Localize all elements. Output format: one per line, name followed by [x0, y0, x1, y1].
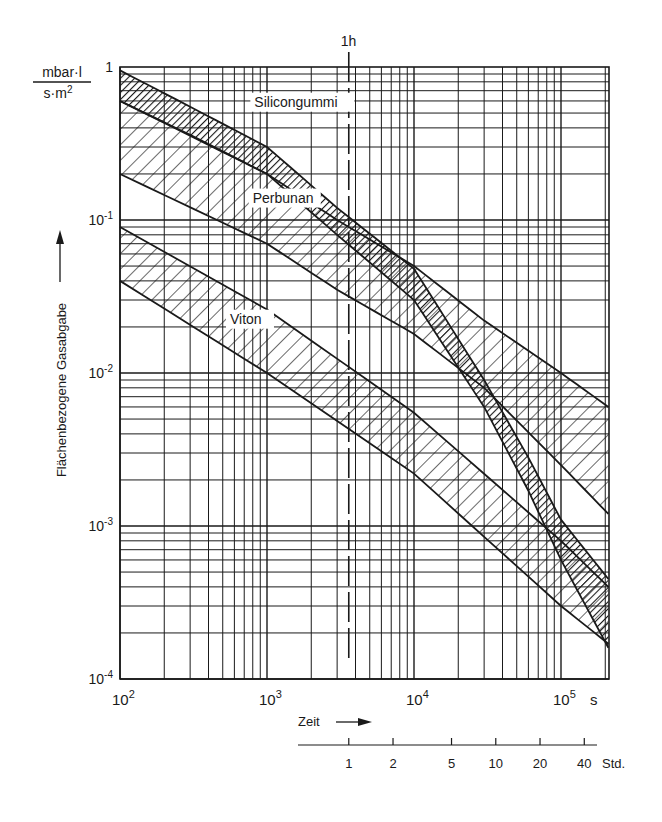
y-tick-label: 10-4 [89, 669, 114, 687]
x-tick-label: 102 [112, 688, 135, 708]
hours-tick-label: 10 [489, 756, 503, 771]
band-viton-lower-edge [120, 281, 608, 644]
x-tick-label: 103 [259, 688, 282, 708]
hours-tick-label: 5 [448, 756, 455, 771]
x-tick-labels: 102103104105 [112, 688, 576, 708]
y-axis-title: Flächenbezogene Gasabgabe [54, 303, 69, 477]
y-tick-label: 1 [105, 59, 113, 75]
hours-tick-label: 40 [577, 756, 591, 771]
y-unit-denominator: s·m2 [44, 84, 73, 101]
hour-marker-label: 1h [341, 33, 357, 49]
y-unit-den-sup: 2 [67, 84, 73, 95]
band-perbunan-lower-edge [120, 174, 608, 514]
x-unit: s [590, 691, 598, 708]
y-tick-label: 10-1 [89, 210, 114, 228]
band-label-viton: Viton [230, 311, 262, 327]
y-axis-title-group: Flächenbezogene Gasabgabe [54, 303, 69, 477]
outgassing-chart: 1h SilicongummiPerbunanViton 110-110-210… [0, 0, 662, 822]
y-tick-labels: 110-110-210-310-4 [89, 59, 114, 687]
x-axis-title: Zeit [298, 714, 320, 729]
material-bands [120, 70, 608, 647]
x-tick-label: 104 [406, 688, 429, 708]
hours-tick-label: 2 [389, 756, 396, 771]
y-unit-den-text: s·m [44, 85, 67, 101]
hours-tick-label: 20 [533, 756, 547, 771]
hour-marker: 1h [341, 33, 357, 659]
y-unit-numerator: mbar·l [42, 64, 82, 80]
y-tick-label: 10-2 [89, 363, 114, 381]
band-label-perbunan: Perbunan [253, 190, 314, 206]
x-axis-arrow-icon [336, 718, 372, 726]
hours-axis-ticks: 125102040 [345, 738, 591, 771]
hours-tick-label: 1 [345, 756, 352, 771]
y-tick-label: 10-3 [89, 516, 114, 534]
hours-unit: Std. [602, 756, 625, 771]
y-axis-arrow-icon [56, 230, 64, 282]
band-label-silicongummi: Silicongummi [254, 94, 337, 110]
x-tick-label: 105 [553, 688, 576, 708]
